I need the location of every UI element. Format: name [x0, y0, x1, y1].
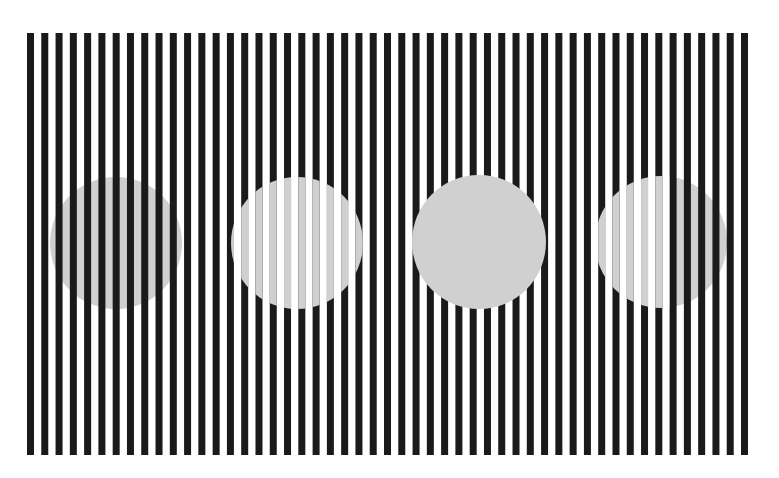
stripe [584, 33, 591, 455]
stripe [156, 33, 163, 455]
stripe [141, 33, 148, 455]
stripe [670, 33, 677, 455]
stripe [370, 33, 377, 455]
stripe [555, 33, 562, 455]
stripe [41, 33, 48, 455]
stripe [398, 33, 405, 455]
stripe [84, 33, 91, 455]
stripe [698, 33, 705, 455]
stripe [384, 33, 391, 455]
stripe [198, 33, 205, 455]
stripe [127, 33, 134, 455]
stripe [70, 33, 77, 455]
stripe [27, 33, 34, 455]
stripe [170, 33, 177, 455]
stripe [741, 33, 748, 455]
stripe [56, 33, 63, 455]
stripe [113, 33, 120, 455]
stripe [727, 33, 734, 455]
stripe [570, 33, 577, 455]
stripe [712, 33, 719, 455]
stripe [684, 33, 691, 455]
disk-3 [412, 175, 546, 309]
stripe [213, 33, 220, 455]
stripe [98, 33, 105, 455]
stripe [184, 33, 191, 455]
stripe-illusion-figure [0, 0, 779, 478]
